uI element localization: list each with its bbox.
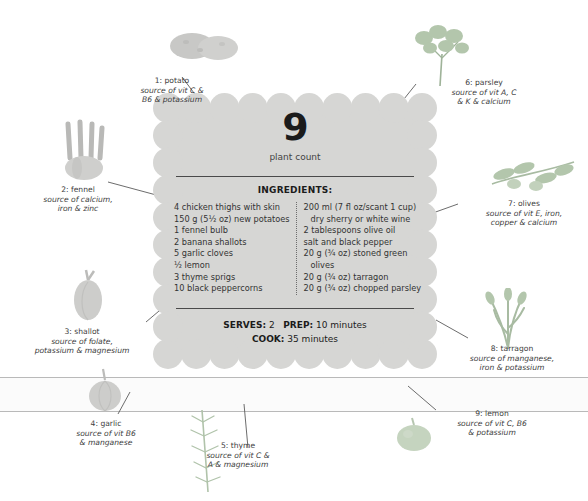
serves-prep-line: SERVES: 2 PREP: 10 minutes xyxy=(150,318,440,332)
callout-name: 7: olives xyxy=(460,199,588,209)
callout-name: 1: potato xyxy=(108,76,236,86)
callout-source-line: source of vit A, C xyxy=(420,88,548,98)
recipe-plate: 9 plant count INGREDIENTS: 4 chicken thi… xyxy=(150,90,440,372)
callout-source-line: source of vit C, B6 xyxy=(428,419,556,429)
callout-source-line: source of folate, xyxy=(18,337,146,347)
callout-source-line: & K & calcium xyxy=(420,97,548,107)
callout-label-olives: 7: olives source of vit E, iron, copper … xyxy=(460,199,588,228)
ingredient-item: ½ lemon xyxy=(174,260,290,272)
divider-top xyxy=(176,176,414,177)
callout-label-garlic: 4: garlic source of vit B6 & manganese xyxy=(42,419,170,448)
callout-label-lemon: 9: lemon source of vit C, B6 & potassium xyxy=(428,409,556,438)
ingredient-item: 200 ml (7 fl oz/scant 1 cup) xyxy=(304,202,422,214)
callout-label-fennel: 2: fennel source of calcium, iron & zinc xyxy=(14,185,142,214)
ingredient-item: 20 g (¾ oz) stoned green xyxy=(304,248,422,260)
ingredient-item: 150 g (5½ oz) new potatoes xyxy=(174,214,290,226)
ingredient-item: 20 g (¾ oz) tarragon xyxy=(304,272,422,284)
callout-source-line: source of vit E, iron, xyxy=(460,209,588,219)
callout-name: 4: garlic xyxy=(42,419,170,429)
callout-source-line: potassium & magnesium xyxy=(18,346,146,356)
callout-name: 6: parsley xyxy=(420,78,548,88)
ingredients-column-left: 4 chicken thighs with skin 150 g (5½ oz)… xyxy=(174,202,296,295)
callout-source-line: iron & potassium xyxy=(448,363,576,373)
ingredient-item: 2 tablespoons olive oil xyxy=(304,225,422,237)
divider-bottom xyxy=(176,308,414,309)
serves-label: SERVES: xyxy=(223,320,266,330)
callout-label-shallot: 3: shallot source of folate, potassium &… xyxy=(18,327,146,356)
serves-value: 2 xyxy=(269,320,275,330)
cook-value: 35 minutes xyxy=(287,334,338,344)
callout-name: 5: thyme xyxy=(174,441,302,451)
callout-name: 8: tarragon xyxy=(448,344,576,354)
plant-count-label: plant count xyxy=(150,152,440,162)
ingredient-item: 5 garlic cloves xyxy=(174,248,290,260)
callout-label-thyme: 5: thyme source of vit C & A & magnesium xyxy=(174,441,302,470)
plant-count-number: 9 xyxy=(150,108,440,146)
ingredient-item: 1 fennel bulb xyxy=(174,225,290,237)
ingredient-item: 20 g (¾ oz) chopped parsley xyxy=(304,283,422,295)
ingredient-item: dry sherry or white wine xyxy=(304,214,422,226)
callout-source-line: & potassium xyxy=(428,428,556,438)
prep-value: 10 minutes xyxy=(316,320,367,330)
ingredient-item: 3 thyme sprigs xyxy=(174,272,290,284)
callout-source-line: & manganese xyxy=(42,438,170,448)
callout-label-tarragon: 8: tarragon source of manganese, iron & … xyxy=(448,344,576,373)
callout-source-line: source of vit C & xyxy=(174,451,302,461)
ingredient-item: olives xyxy=(304,260,422,272)
callout-source-line: iron & zinc xyxy=(14,204,142,214)
callout-source-line: B6 & potassium xyxy=(108,95,236,105)
callout-name: 2: fennel xyxy=(14,185,142,195)
ingredients-columns: 4 chicken thighs with skin 150 g (5½ oz)… xyxy=(174,202,418,295)
prep-label: PREP: xyxy=(283,320,313,330)
leader-line-8 xyxy=(436,320,468,338)
callout-label-parsley: 6: parsley source of vit A, C & K & calc… xyxy=(420,78,548,107)
callout-source-line: copper & calcium xyxy=(460,218,588,228)
cook-label: COOK: xyxy=(252,334,284,344)
ingredient-item: 2 banana shallots xyxy=(174,237,290,249)
callout-label-potato: 1: potato source of vit C & B6 & potassi… xyxy=(108,76,236,105)
callout-source-line: source of calcium, xyxy=(14,195,142,205)
callout-source-line: source of vit C & xyxy=(108,86,236,96)
ingredients-heading: INGREDIENTS: xyxy=(150,185,440,195)
callout-source-line: source of manganese, xyxy=(448,354,576,364)
callout-source-line: source of vit B6 xyxy=(42,429,170,439)
recipe-meta: SERVES: 2 PREP: 10 minutes COOK: 35 minu… xyxy=(150,318,440,346)
callout-name: 9: lemon xyxy=(428,409,556,419)
callout-name: 3: shallot xyxy=(18,327,146,337)
leader-line-9 xyxy=(408,386,436,410)
ingredients-column-right: 200 ml (7 fl oz/scant 1 cup) dry sherry … xyxy=(296,202,422,295)
ingredient-item: salt and black pepper xyxy=(304,237,422,249)
ingredient-item: 10 black peppercorns xyxy=(174,283,290,295)
cook-line: COOK: 35 minutes xyxy=(150,332,440,346)
callout-source-line: A & magnesium xyxy=(174,460,302,470)
ingredient-item: 4 chicken thighs with skin xyxy=(174,202,290,214)
leader-line-4 xyxy=(118,392,130,414)
